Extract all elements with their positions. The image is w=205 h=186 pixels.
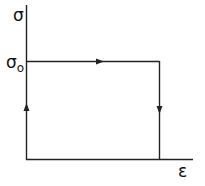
y-axis-label: σ (13, 5, 24, 25)
x-axis-label: ε (178, 161, 187, 181)
level-label: σo (6, 52, 24, 75)
arrow-up-icon (24, 103, 30, 111)
arrow-right-icon (96, 59, 104, 65)
arrow-down-icon (157, 106, 163, 114)
level-subscript: o (17, 61, 24, 75)
stress-strain-diagram: σ σo ε (0, 0, 205, 186)
